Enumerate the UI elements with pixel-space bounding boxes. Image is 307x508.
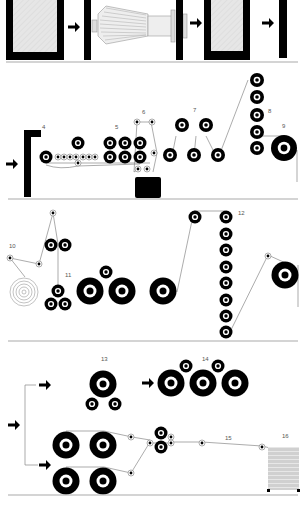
stage-label-15: 15 bbox=[225, 435, 232, 441]
roller-icon bbox=[220, 294, 233, 307]
roller-icon bbox=[271, 135, 297, 161]
spinning-cone-icon bbox=[92, 6, 187, 44]
stage-label-16: 16 bbox=[282, 433, 289, 439]
roller-icon bbox=[220, 261, 233, 274]
roller-icon bbox=[134, 137, 147, 150]
guide-pulley-icon bbox=[147, 440, 153, 446]
guide-pulley-icon bbox=[86, 154, 92, 160]
roller-icon bbox=[211, 148, 225, 162]
guide-pulley-icon bbox=[168, 434, 174, 440]
collection-bin bbox=[135, 177, 161, 198]
guide-pulley-icon bbox=[259, 444, 265, 450]
roller-icon bbox=[155, 427, 168, 440]
roller-icon bbox=[59, 298, 72, 311]
feed-frame bbox=[24, 130, 41, 197]
roller-icon bbox=[250, 141, 264, 155]
roller-icon bbox=[100, 266, 113, 279]
guide-pulley-icon bbox=[144, 166, 150, 172]
coil-icon bbox=[10, 278, 38, 306]
roller-icon bbox=[90, 371, 117, 398]
stage-label-12: 12 bbox=[238, 210, 245, 216]
guide-pulley-icon bbox=[199, 440, 205, 446]
stage-label-11: 11 bbox=[65, 272, 72, 278]
roller-icon bbox=[250, 108, 264, 122]
process-diagram: 4 5 6 7 8 9 1 bbox=[0, 0, 307, 508]
roller-icon bbox=[77, 278, 104, 305]
right-arrow-icon bbox=[8, 420, 20, 430]
roller-icon bbox=[212, 360, 225, 373]
guide-pulley-icon bbox=[67, 154, 73, 160]
machine-post bbox=[176, 0, 183, 60]
right-arrow-icon bbox=[68, 22, 80, 32]
roller-icon bbox=[59, 239, 72, 252]
guide-pulley-icon bbox=[50, 210, 56, 216]
roller-icon bbox=[52, 285, 65, 298]
right-arrow-icon bbox=[142, 378, 154, 388]
right-arrow-icon bbox=[262, 18, 274, 28]
roller-icon bbox=[53, 432, 80, 459]
roller-icon bbox=[250, 125, 264, 139]
guide-pulley-icon bbox=[149, 119, 155, 125]
roller-icon bbox=[220, 228, 233, 241]
stage-label-10: 10 bbox=[9, 243, 16, 249]
right-arrow-icon bbox=[39, 380, 51, 390]
roller-icon bbox=[109, 278, 136, 305]
right-arrow-icon bbox=[39, 460, 51, 470]
row-3: 10 11 12 bbox=[7, 210, 299, 341]
roller-icon bbox=[104, 151, 117, 164]
stage-label-7: 7 bbox=[193, 107, 197, 113]
bale-stack-icon bbox=[267, 447, 300, 492]
roller-icon bbox=[220, 326, 233, 339]
roller-icon bbox=[272, 262, 299, 289]
guide-pulley-icon bbox=[36, 261, 42, 267]
roller-icon bbox=[72, 137, 85, 150]
stage-label-6: 6 bbox=[142, 109, 146, 115]
guide-pulley-icon bbox=[7, 255, 13, 261]
stage-label-9: 9 bbox=[282, 123, 286, 129]
roller-icon bbox=[90, 468, 117, 495]
roller-icon bbox=[134, 151, 147, 164]
guide-pulley-icon bbox=[73, 154, 79, 160]
roller-icon bbox=[163, 148, 177, 162]
roller-icon bbox=[250, 73, 264, 87]
row-2: 4 5 6 7 8 9 bbox=[6, 73, 298, 199]
guide-pulley-icon bbox=[61, 154, 67, 160]
roller-icon bbox=[155, 441, 168, 454]
guide-pulley-icon bbox=[151, 150, 157, 156]
roller-icon bbox=[104, 137, 117, 150]
roller-icon bbox=[187, 148, 201, 162]
roller-icon bbox=[220, 310, 233, 323]
right-arrow-icon bbox=[6, 159, 18, 169]
roller-icon bbox=[189, 211, 202, 224]
roller-icon bbox=[109, 398, 122, 411]
roller-icon bbox=[45, 239, 58, 252]
guide-pulley-icon bbox=[168, 440, 174, 446]
roller-icon bbox=[40, 151, 53, 164]
roller-icon bbox=[220, 211, 233, 224]
roller-icon bbox=[45, 298, 58, 311]
process-diagram-svg: 4 5 6 7 8 9 1 bbox=[0, 0, 307, 508]
roller-icon bbox=[220, 244, 233, 257]
guide-pulley-icon bbox=[75, 160, 81, 166]
roller-icon bbox=[119, 151, 132, 164]
roller-icon bbox=[90, 432, 117, 459]
guide-pulley-icon bbox=[134, 119, 140, 125]
roller-icon bbox=[222, 370, 249, 397]
roller-icon bbox=[199, 118, 213, 132]
stage-label-13: 13 bbox=[101, 356, 108, 362]
guide-pulley-icon bbox=[55, 154, 61, 160]
stage-label-14: 14 bbox=[202, 356, 209, 362]
roller-icon bbox=[175, 118, 189, 132]
machine-post bbox=[279, 0, 287, 58]
right-arrow-icon bbox=[190, 18, 202, 28]
roller-icon bbox=[220, 277, 233, 290]
roller-icon bbox=[86, 398, 99, 411]
guide-pulley-icon bbox=[128, 434, 134, 440]
guide-pulley-icon bbox=[135, 166, 141, 172]
guide-pulley-icon bbox=[80, 154, 86, 160]
roller-icon bbox=[150, 278, 177, 305]
roller-icon bbox=[190, 370, 217, 397]
row-4: 13 14 15 16 bbox=[8, 356, 300, 495]
guide-pulley-icon bbox=[265, 253, 271, 259]
stage-label-5: 5 bbox=[115, 124, 119, 130]
